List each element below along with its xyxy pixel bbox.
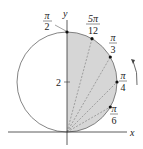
angle-num-5pi-12: 5π: [88, 13, 99, 24]
angle-den-pi-2: 2: [45, 21, 50, 32]
y-axis-label: y: [62, 8, 68, 19]
angle-num-pi-4: π: [120, 70, 126, 81]
y-tick-label: 2: [56, 77, 61, 88]
angle-den-5pi-12: 12: [88, 25, 98, 36]
x-axis-label: x: [129, 127, 135, 138]
rotation-arrow: [133, 61, 137, 85]
angle-den-pi-6: 6: [112, 115, 117, 126]
angle-num-pi-6: π: [111, 103, 117, 114]
angle-num-pi-3: π: [110, 32, 116, 43]
shaded-region: [67, 32, 117, 132]
angle-den-pi-4: 4: [121, 82, 126, 93]
angle-num-pi-2: π: [44, 10, 50, 21]
arrow-head-icon: [131, 59, 135, 64]
pi-over-2-leader: [55, 25, 66, 31]
angle-den-pi-3: 3: [111, 44, 116, 55]
polar-diagram: x y 2 π 2 5π 12 π 3 π 4 π 6: [0, 0, 143, 149]
